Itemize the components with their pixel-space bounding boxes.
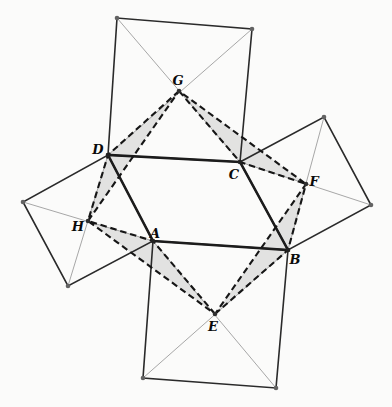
point-label-H: H — [71, 219, 85, 234]
square-corner-dot-CR — [322, 115, 327, 120]
point-label-F: F — [308, 174, 319, 189]
square-center-dot-G — [177, 89, 182, 94]
figure-background — [0, 0, 392, 407]
point-label-G: G — [172, 73, 183, 88]
geometry-figure: ABCDEFGH — [0, 0, 392, 407]
square-corner-dot-AB2 — [141, 376, 146, 381]
square-corner-dot-DL — [21, 200, 26, 205]
square-corner-dot-BB — [274, 386, 279, 391]
figure-svg: ABCDEFGH — [0, 0, 392, 407]
point-label-C: C — [229, 167, 240, 182]
square-center-dot-F — [304, 182, 309, 187]
square-center-dot-H — [86, 219, 91, 224]
thebault-squares-diagram: ABCDEFGH — [0, 0, 392, 407]
vertex-dot-C — [238, 160, 243, 165]
point-label-D: D — [91, 142, 104, 157]
vertex-dot-D — [106, 153, 111, 158]
point-label-B: B — [289, 252, 301, 267]
square-corner-dot-DT — [115, 16, 120, 21]
square-corner-dot-CT — [250, 27, 255, 32]
point-label-E: E — [207, 319, 219, 334]
square-center-dot-E — [213, 312, 218, 317]
point-label-A: A — [148, 226, 160, 241]
square-corner-dot-BR — [369, 203, 374, 208]
square-corner-dot-AL — [66, 284, 71, 289]
